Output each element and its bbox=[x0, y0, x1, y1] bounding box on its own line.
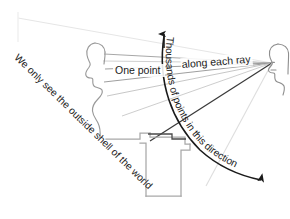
concept-diagram: One point along each ray Thousands of po… bbox=[0, 0, 290, 219]
head-profile-right bbox=[269, 44, 289, 95]
ray-8-faint-low bbox=[206, 63, 272, 186]
label-one-point-text: One point bbox=[115, 64, 161, 76]
label-along-each-ray: along each ray bbox=[180, 53, 253, 72]
diagram-canvas: One point along each ray Thousands of po… bbox=[0, 0, 290, 219]
label-one-point: One point bbox=[113, 64, 165, 77]
